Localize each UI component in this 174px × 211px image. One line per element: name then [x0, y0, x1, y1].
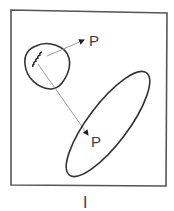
arrow-to-lower-p — [38, 64, 88, 135]
arrow-to-upper-p — [47, 40, 84, 56]
small-region-blob — [25, 44, 70, 89]
upper-p-label: P — [89, 32, 99, 49]
wavy-mark-icon — [33, 52, 42, 67]
lower-p-label: P — [91, 133, 101, 150]
figure-caption: I — [83, 194, 87, 211]
large-region-ellipse — [54, 61, 163, 187]
diagram-canvas: P P I — [0, 0, 174, 211]
